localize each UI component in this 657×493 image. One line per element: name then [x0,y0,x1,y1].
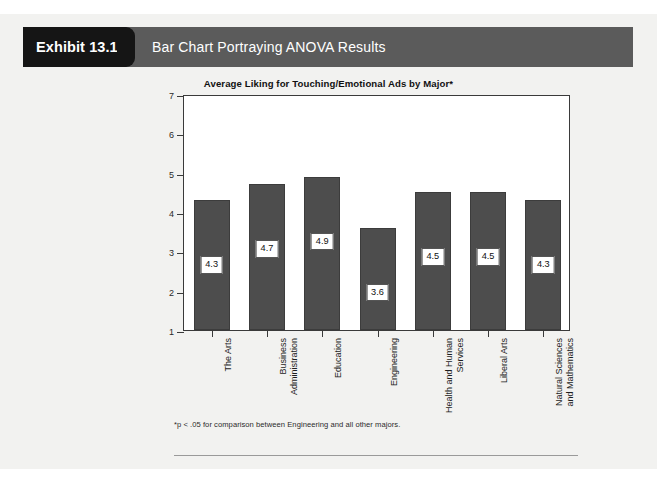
exhibit-title-bar: Bar Chart Portraying ANOVA Results [126,27,633,67]
chart-title: Average Liking for Touching/Emotional Ad… [0,78,657,89]
y-axis-tick-label: 4 [169,209,174,219]
y-axis-tick-label: 1 [169,327,174,337]
exhibit-page: Exhibit 13.16 Bar Chart Portraying ANOVA… [0,0,657,493]
y-axis-tick-label: 5 [169,170,174,180]
x-axis [184,96,569,330]
x-axis-category-label: Health and HumanServices [444,338,458,438]
exhibit-header: Exhibit 13.16 Bar Chart Portraying ANOVA… [23,27,633,67]
y-axis-tick-label: 7 [169,91,174,101]
y-axis-tick-label: 6 [169,130,174,140]
y-axis-tick [177,253,184,254]
x-axis-tick [543,330,544,337]
bottom-divider [174,455,578,456]
x-axis-tick [212,330,213,337]
x-axis-tick [433,330,434,337]
x-axis-tick [267,330,268,337]
y-axis-tick [177,135,184,136]
x-axis-category-line: Liberal Arts [499,338,510,438]
y-axis-tick-label: 2 [169,288,174,298]
x-axis-tick [378,330,379,337]
y-axis-tick [177,214,184,215]
exhibit-number-tab: Exhibit 13.16 [23,27,126,67]
y-axis-tick [177,175,184,176]
x-axis-category-line: Natural Sciences [554,338,565,438]
x-axis-category-line: Services [454,338,465,438]
x-axis-tick [488,330,489,337]
y-axis-tick [177,332,184,333]
plot-area: 1234567 4.34.74.93.64.54.54.3 [183,95,570,331]
x-axis-tick [322,330,323,337]
chart-block: Average Liking for Touching/Emotional Ad… [0,72,657,452]
y-axis-tick [177,293,184,294]
y-axis-tick [177,96,184,97]
x-axis-category-label: Liberal Arts [499,338,513,438]
x-axis-category-line: Health and Human [444,338,455,438]
chart-footnote: *p < .05 for comparison between Engineer… [174,420,400,429]
x-axis-category-line: and Mathematics [565,338,576,438]
exhibit-title-label: Bar Chart Portraying ANOVA Results [152,39,386,55]
exhibit-number-label: Exhibit 13.16 [36,39,126,55]
y-axis-tick-label: 3 [169,248,174,258]
x-axis-category-label: Natural Sciencesand Mathematics [554,338,568,438]
